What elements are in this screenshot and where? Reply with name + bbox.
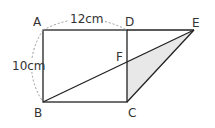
point-label-e: E [192, 16, 200, 30]
dimension-label-top: 12cm [70, 12, 104, 26]
point-label-b: B [34, 106, 42, 120]
segment-be [43, 30, 194, 102]
rectangle-abcd [43, 30, 127, 102]
point-label-f: F [116, 50, 123, 64]
point-label-a: A [33, 15, 42, 29]
dimension-label-left: 10cm [12, 59, 46, 73]
point-label-d: D [125, 15, 134, 29]
point-label-c: C [128, 106, 136, 120]
geometry-figure: 12cm 10cm A D E F B C [0, 0, 215, 128]
